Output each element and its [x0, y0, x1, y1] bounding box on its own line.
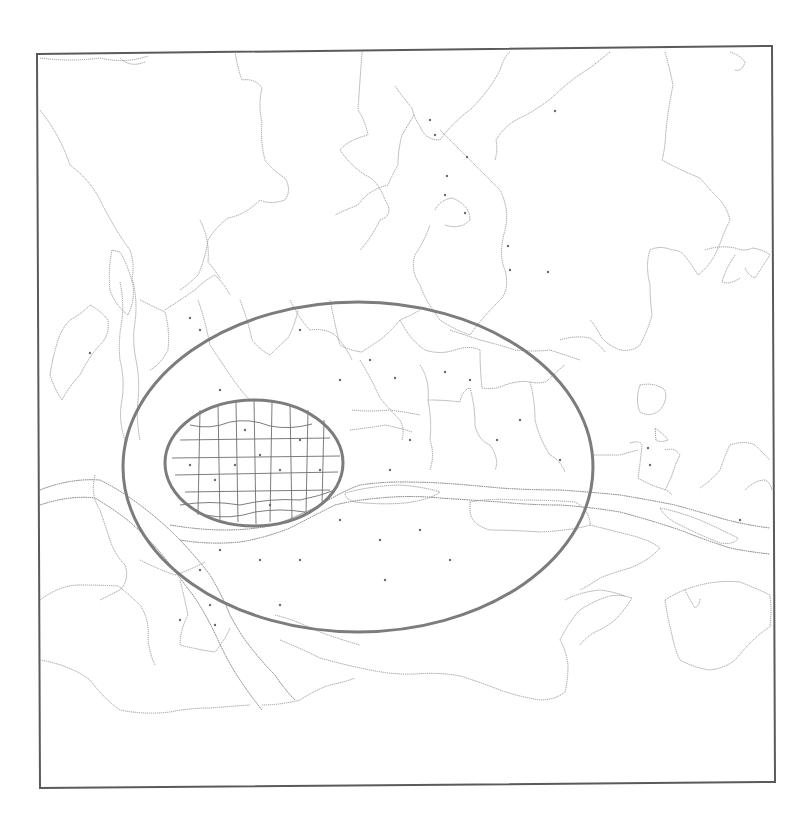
map-container	[0, 0, 809, 816]
map-frame	[37, 46, 775, 788]
mid-boundaries	[198, 300, 580, 472]
eastern-boundaries	[560, 337, 680, 495]
boundary-map	[0, 0, 809, 816]
southern-boundaries	[40, 443, 772, 714]
outer-ring	[123, 302, 593, 632]
river	[40, 480, 770, 710]
district-centroids	[89, 110, 741, 626]
